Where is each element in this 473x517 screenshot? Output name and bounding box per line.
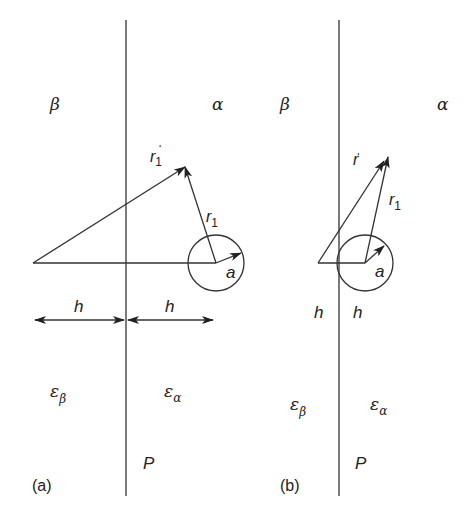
region-beta-label-a: β <box>49 94 60 114</box>
distance-left-label-a: h <box>74 297 83 316</box>
permittivity-beta-label-b: εβ <box>290 394 306 419</box>
caption-a: (a) <box>32 477 52 494</box>
plane-label-a: P <box>143 454 155 473</box>
panel-a: β α r1' r1 a h h εβ εα P (a) <box>32 20 244 496</box>
region-alpha-label-a: α <box>212 94 224 114</box>
distance-right-label-a: h <box>165 297 174 316</box>
caption-b: (b) <box>280 477 300 494</box>
radius-label-b: a <box>375 262 384 281</box>
vector-r1-prime-label-b: r' <box>353 151 359 168</box>
distance-right-label-b: h <box>353 303 362 322</box>
permittivity-alpha-label-b: εα <box>370 394 387 418</box>
permittivity-beta-label-a: εβ <box>50 381 66 406</box>
vector-r1-prime-a <box>33 167 185 263</box>
vector-r1-prime-b <box>318 161 384 263</box>
vector-r1-label-b: r1 <box>389 191 401 213</box>
vector-r1-prime-label-a: r1' <box>150 143 162 169</box>
panel-b: β α r' r1 a h h εβ εα P (b) <box>279 20 449 496</box>
permittivity-alpha-label-a: εα <box>164 381 181 405</box>
radius-label-a: a <box>226 263 235 282</box>
region-beta-label-b: β <box>279 94 290 114</box>
radius-arrow-a <box>216 253 241 263</box>
vector-r1-label-a: r1 <box>206 208 218 230</box>
image-charge-diagram: β α r1' r1 a h h εβ εα P (a) β α r' <box>0 0 473 517</box>
vector-r1-a <box>185 167 216 263</box>
distance-left-label-b: h <box>314 303 323 322</box>
plane-label-b: P <box>355 454 367 473</box>
region-alpha-label-b: α <box>437 94 449 114</box>
